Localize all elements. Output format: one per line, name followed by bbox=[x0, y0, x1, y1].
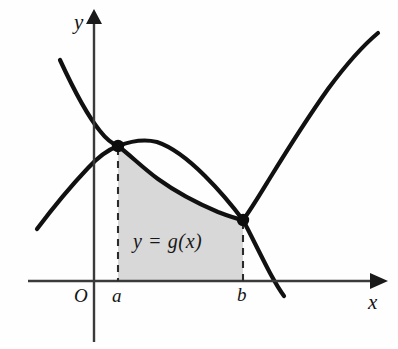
intersection-point-b bbox=[237, 214, 249, 226]
x-tick-label-b: b bbox=[237, 285, 247, 304]
region-equation-label: y = g(x) bbox=[133, 231, 202, 251]
figure-canvas: y x O a b y = g(x) bbox=[0, 0, 398, 349]
plot-svg bbox=[0, 0, 398, 349]
y-axis-arrow-icon bbox=[86, 9, 102, 24]
intersection-point-a bbox=[112, 140, 124, 152]
parabola-curve bbox=[37, 33, 378, 229]
x-axis-label: x bbox=[368, 292, 377, 313]
x-axis-arrow-icon bbox=[370, 273, 388, 289]
origin-label: O bbox=[74, 286, 88, 305]
x-tick-label-a: a bbox=[112, 286, 122, 305]
y-axis-label: y bbox=[74, 12, 83, 33]
